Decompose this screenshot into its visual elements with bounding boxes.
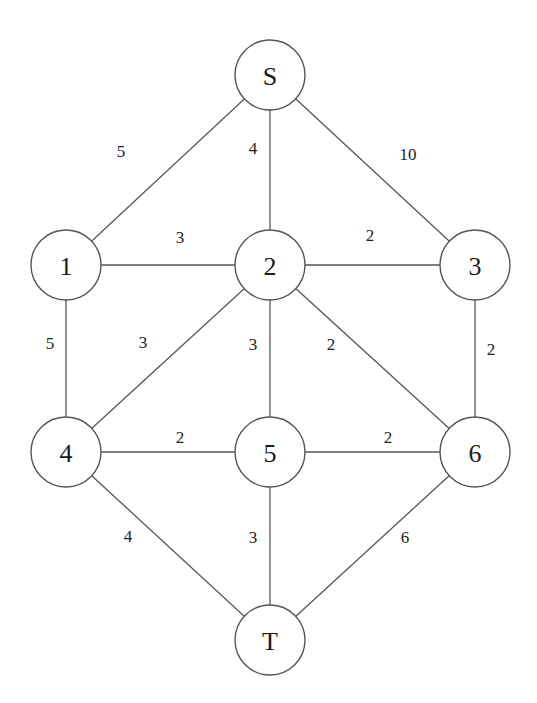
edge-weight-3-6: 2 [487,340,496,359]
node-2: 2 [235,230,305,300]
edge-weight-6-T: 6 [401,528,410,547]
node-4: 4 [31,417,101,487]
node-S: S [235,40,305,110]
edge-S-1 [66,75,270,265]
node-label: 6 [469,439,482,468]
weighted-graph-diagram: 5410325332222436 S123456T [0,0,537,703]
node-label: T [262,627,278,656]
node-6: 6 [440,417,510,487]
edge-weight-S-1: 5 [117,142,126,161]
node-label: 2 [264,252,277,281]
edge-weight-5-T: 3 [249,528,258,547]
edge-6-T [270,452,475,640]
edge-2-6 [270,265,475,452]
node-5: 5 [235,417,305,487]
node-label: S [263,62,277,91]
edge-weight-4-5: 2 [176,428,185,447]
node-3: 3 [440,230,510,300]
edge-weight-2-6: 2 [327,335,336,354]
node-label: 4 [60,439,73,468]
edge-weight-S-2: 4 [249,139,258,158]
edge-2-4 [66,265,270,452]
edge-weight-S-3: 10 [400,145,417,164]
edge-4-T [66,452,270,640]
node-label: 3 [469,252,482,281]
edge-weight-2-5: 3 [249,335,258,354]
edge-weight-2-4: 3 [139,333,148,352]
node-label: 1 [60,252,73,281]
edge-weight-5-6: 2 [384,428,393,447]
edge-weight-2-3: 2 [366,226,375,245]
edge-weight-4-T: 4 [124,527,133,546]
edge-weight-1-2: 3 [176,228,185,247]
edge-weight-1-4: 5 [46,334,55,353]
node-1: 1 [31,230,101,300]
node-label: 5 [264,439,277,468]
node-T: T [235,605,305,675]
